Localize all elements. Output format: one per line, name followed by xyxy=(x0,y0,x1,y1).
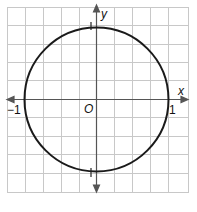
y-axis-down-arrow-icon xyxy=(94,185,100,192)
origin-label: O xyxy=(84,102,93,116)
y-axis-label: y xyxy=(100,7,108,21)
coordinate-plane: y x O −1 1 xyxy=(0,0,197,212)
x-axis xyxy=(7,97,188,103)
y-axis xyxy=(94,5,100,192)
x-axis-label: x xyxy=(177,84,185,98)
x-tick-label-neg1: −1 xyxy=(7,103,21,117)
y-axis-up-arrow-icon xyxy=(94,5,100,12)
x-tick-label-1: 1 xyxy=(169,103,176,117)
x-axis-left-arrow-icon xyxy=(7,97,14,103)
